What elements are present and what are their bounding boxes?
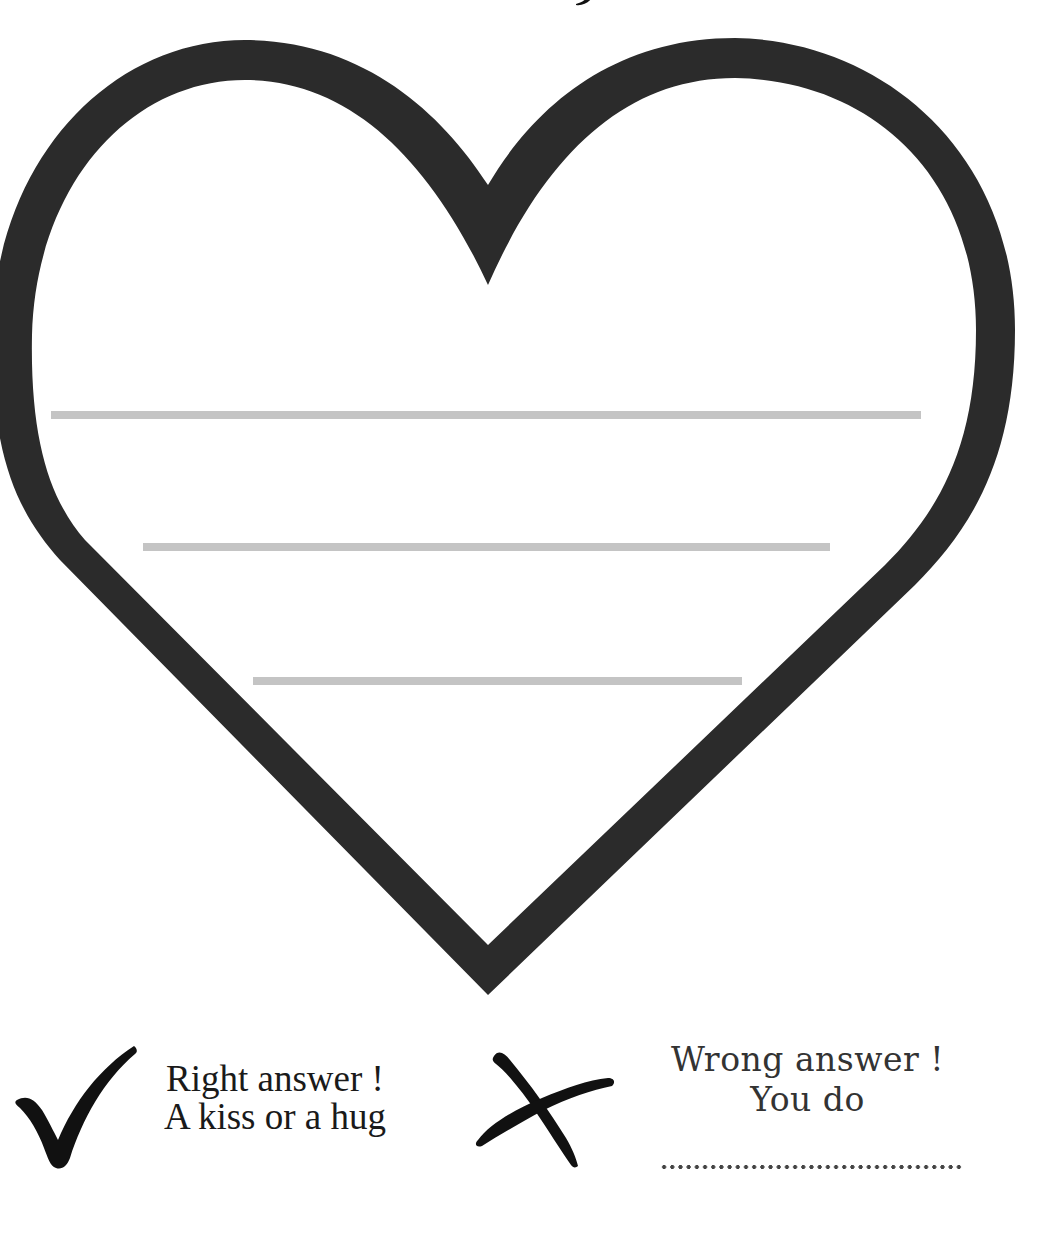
writing-line-2 — [143, 543, 830, 551]
cross-icon — [470, 1034, 615, 1169]
right-answer-line1: Right answer ! — [140, 1060, 410, 1098]
right-answer-label: Right answer ! A kiss or a hug — [140, 1060, 410, 1136]
worksheet-page: Right answer ! A kiss or a hug Wrong ans… — [0, 0, 1037, 1240]
wrong-answer-line2: You do — [640, 1080, 975, 1120]
fill-in-blank-dotted-line[interactable] — [660, 1164, 964, 1170]
wrong-answer-line1: Wrong answer ! — [640, 1040, 975, 1080]
writing-line-3 — [253, 677, 742, 685]
wrong-answer-label: Wrong answer ! You do — [640, 1040, 975, 1120]
writing-line-1 — [51, 411, 921, 419]
right-answer-line2: A kiss or a hug — [140, 1098, 410, 1136]
checkmark-icon — [12, 1040, 137, 1170]
